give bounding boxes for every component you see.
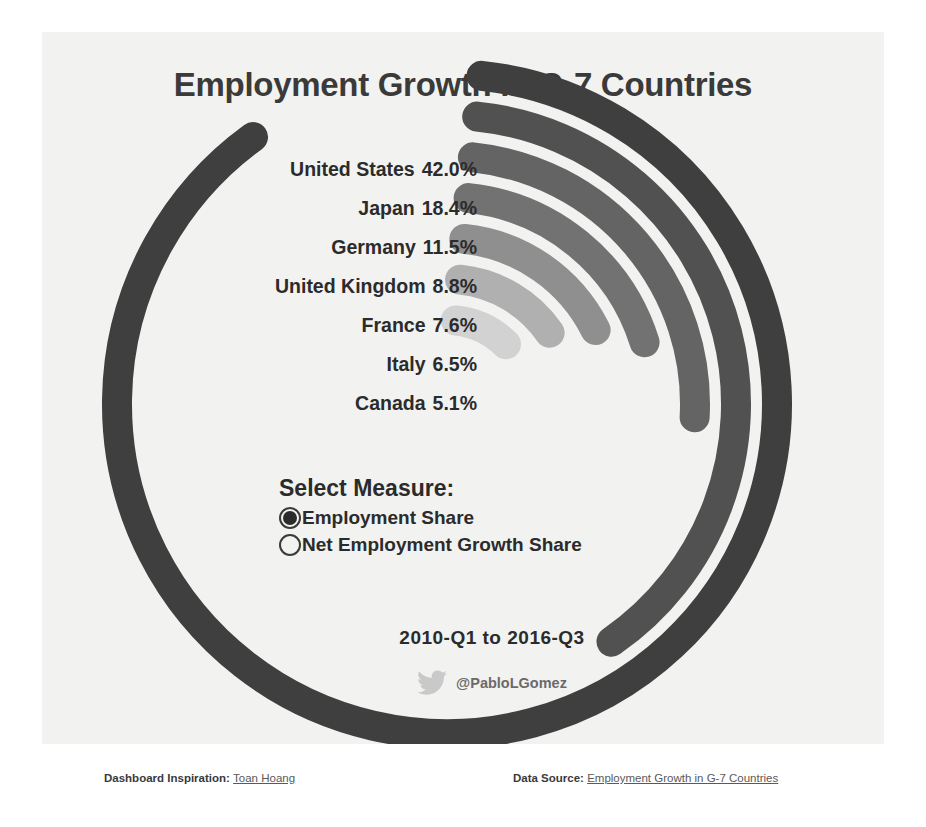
country-name: United Kingdom	[275, 275, 426, 297]
country-name: Germany	[331, 236, 416, 258]
footer-data-source-link[interactable]: Employment Growth in G-7 Countries	[587, 772, 778, 784]
country-value: 42.0%	[422, 158, 477, 180]
list-item: Canada5.1%	[247, 384, 477, 423]
radio-option-label: Employment Share	[302, 507, 474, 529]
list-item: United Kingdom8.8%	[247, 267, 477, 306]
country-value: 18.4%	[422, 197, 477, 219]
country-name: Japan	[358, 197, 414, 219]
country-name: France	[362, 314, 426, 336]
radio-option-employment-share[interactable]: Employment Share	[279, 504, 679, 531]
footer-data-source-label: Data Source:	[513, 772, 584, 784]
twitter-bird-icon	[417, 670, 447, 696]
list-item: France7.6%	[247, 306, 477, 345]
radio-option-label: Net Employment Growth Share	[302, 534, 582, 556]
footer-inspiration-link[interactable]: Toan Hoang	[233, 772, 295, 784]
twitter-handle: @PabloLGomez	[456, 675, 567, 691]
list-item: Germany11.5%	[247, 228, 477, 267]
country-label-list: United States42.0% Japan18.4% Germany11.…	[247, 150, 477, 423]
dashboard-canvas: Employment Growth in G-7 Countries Unite…	[42, 32, 884, 744]
dashboard-root: Employment Growth in G-7 Countries Unite…	[0, 0, 926, 827]
country-value: 5.1%	[433, 392, 477, 414]
radio-button-icon[interactable]	[279, 507, 301, 529]
country-name: United States	[290, 158, 415, 180]
select-measure-title: Select Measure:	[279, 475, 679, 502]
radio-option-net-employment-growth-share[interactable]: Net Employment Growth Share	[279, 531, 679, 558]
credit-row: @PabloLGomez	[342, 670, 642, 696]
footer-inspiration-label: Dashboard Inspiration:	[104, 772, 230, 784]
country-name: Canada	[355, 392, 425, 414]
country-value: 7.6%	[433, 314, 477, 336]
country-value: 11.5%	[423, 236, 477, 258]
list-item: United States42.0%	[247, 150, 477, 189]
radio-button-icon[interactable]	[279, 534, 301, 556]
footer-data-source: Data Source: Employment Growth in G-7 Co…	[513, 772, 778, 784]
footer-inspiration: Dashboard Inspiration: Toan Hoang	[104, 772, 295, 784]
country-value: 8.8%	[433, 275, 477, 297]
select-measure-control: Select Measure: Employment Share Net Emp…	[279, 475, 679, 558]
country-name: Italy	[387, 353, 426, 375]
list-item: Italy6.5%	[247, 345, 477, 384]
country-value: 6.5%	[433, 353, 477, 375]
date-range-text: 2010-Q1 to 2016-Q3	[342, 627, 642, 649]
list-item: Japan18.4%	[247, 189, 477, 228]
